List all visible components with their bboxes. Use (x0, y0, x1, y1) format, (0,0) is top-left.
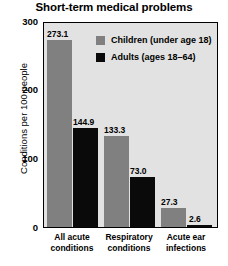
bar-chart: Short-term medical problems Conditions p… (0, 0, 228, 266)
bar-value-children-all-acute: 273.1 (47, 30, 68, 39)
x-label-all-acute-conditions: All acute conditions (43, 232, 101, 253)
bar-children-all-acute (47, 40, 72, 228)
legend-swatch-adults-icon (96, 53, 105, 62)
bar-adults-ear-infections (187, 225, 212, 227)
x-label-respiratory-line1: Respiratory (100, 232, 158, 243)
legend-item-adults: Adults (ages 18–64) (96, 52, 212, 62)
x-label-ear-infections-line1: Acute ear (157, 232, 215, 243)
x-label-all-acute-line1: All acute (43, 232, 101, 243)
x-label-respiratory-conditions: Respiratory conditions (100, 232, 158, 253)
legend-item-children: Children (under age 18) (96, 35, 212, 45)
bar-adults-respiratory (130, 177, 155, 227)
bar-children-ear-infections (161, 208, 186, 227)
x-label-all-acute-line2: conditions (43, 243, 101, 254)
bar-value-adults-ear-infections: 2.6 (189, 215, 201, 224)
bar-value-children-ear-infections: 27.3 (161, 198, 178, 207)
y-tick-300: 300 (12, 17, 38, 27)
legend-swatch-children-icon (96, 36, 105, 45)
plot-area: 273.1 144.9 133.3 73.0 27.3 2.6 Children… (43, 22, 218, 228)
bar-adults-all-acute (73, 128, 98, 228)
bar-value-adults-all-acute: 144.9 (73, 118, 94, 127)
y-tick-0: 0 (12, 223, 38, 233)
legend: Children (under age 18) Adults (ages 18–… (96, 35, 212, 69)
y-tick-200: 200 (12, 85, 38, 95)
bar-value-adults-respiratory: 73.0 (130, 167, 147, 176)
x-label-respiratory-line2: conditions (100, 243, 158, 254)
x-label-ear-infections-line2: infections (157, 243, 215, 254)
bar-value-children-respiratory: 133.3 (104, 126, 125, 135)
legend-label-adults: Adults (ages 18–64) (111, 52, 196, 62)
bar-children-respiratory (104, 136, 129, 228)
legend-label-children: Children (under age 18) (111, 35, 212, 45)
y-tick-100: 100 (12, 154, 38, 164)
y-axis-ticks: 300 200 100 0 (8, 0, 38, 266)
x-axis-labels: All acute conditions Respiratory conditi… (43, 232, 218, 264)
x-label-acute-ear-infections: Acute ear infections (157, 232, 215, 253)
